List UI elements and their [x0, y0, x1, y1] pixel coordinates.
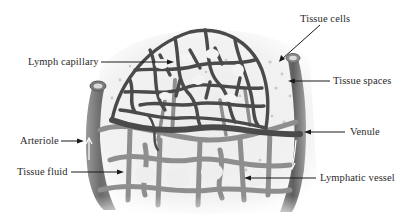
label-tissue-fluid: Tissue fluid: [17, 166, 68, 178]
label-tissue-cells: Tissue cells: [300, 13, 350, 25]
label-lymphatic-vessel: Lymphatic vessel: [320, 172, 395, 184]
label-venule: Venule: [350, 126, 380, 138]
label-tissue-spaces: Tissue spaces: [333, 75, 391, 87]
label-arteriole: Arteriole: [20, 135, 59, 147]
diagram-illustration: [0, 0, 416, 224]
lymph-capillary-diagram: Tissue cells Lymph capillary Tissue spac…: [0, 0, 416, 224]
label-lymph-capillary: Lymph capillary: [28, 56, 99, 68]
